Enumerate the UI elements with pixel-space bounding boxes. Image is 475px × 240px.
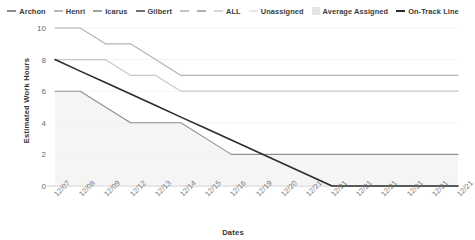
x-axis-tick-label: 12/09 [102,179,122,199]
x-axis-tick-label: 12/20 [279,179,299,199]
x-axis-tick-label: 12/21 [455,179,475,199]
x-axis-tick-label: 12/21 [405,179,425,199]
x-axis-tick-label: 12/15 [203,179,223,199]
x-axis-tick-label: 12/19 [254,179,274,199]
x-axis-tick-label: 12/21 [329,179,349,199]
x-axis-tick-label: 12/14 [178,179,198,199]
x-axis-tick-label: 12/21 [354,179,374,199]
x-axis-tick-label: 12/12 [128,179,148,199]
x-axis-tick-label: 12/13 [153,179,173,199]
x-axis-tick-label: 12/21 [304,179,324,199]
x-axis-tick-label: 12/08 [77,179,97,199]
x-axis-tick-label: 12/21 [430,179,450,199]
x-axis-tick-label: 12/16 [228,179,248,199]
x-axis-tick-label: 12/21 [379,179,399,199]
x-axis-tick-label: 12/07 [52,179,72,199]
